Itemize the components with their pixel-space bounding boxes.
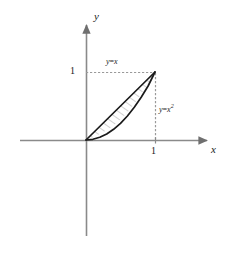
curve-label-parabola: y=x2 [159, 103, 174, 114]
line-y-equals-x [86, 72, 155, 140]
x-tick-label-1: 1 [151, 146, 156, 156]
y-axis-label: y [94, 11, 99, 22]
figure-canvas [0, 0, 232, 258]
curve-label-line-rhs: x [114, 57, 118, 66]
x-axis-label: x [211, 144, 216, 155]
curve-label-parabola-exponent: 2 [171, 103, 174, 109]
y-tick-label-1: 1 [70, 66, 75, 76]
math-figure: y x 1 1 y=x y=x2 [0, 0, 232, 258]
curves-group [86, 72, 155, 140]
curve-label-line: y=x [106, 58, 118, 66]
